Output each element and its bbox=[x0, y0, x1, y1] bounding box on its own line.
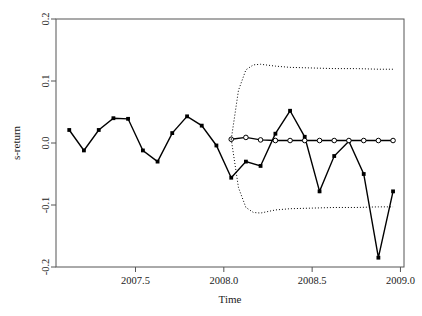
y-axis: -0.2-0.10.00.10.2 bbox=[40, 12, 57, 275]
time-series-forecast-plot: 2007.52008.02008.52009.0 -0.2-0.10.00.10… bbox=[0, 0, 422, 316]
data-point-marker bbox=[229, 176, 233, 180]
data-point-marker bbox=[391, 189, 395, 193]
chart-container: 2007.52008.02008.52009.0 -0.2-0.10.00.10… bbox=[0, 0, 422, 316]
data-point-marker bbox=[332, 154, 336, 158]
forecast-point-marker bbox=[332, 138, 337, 143]
x-axis-tick-label: 2007.5 bbox=[121, 275, 150, 286]
data-point-marker bbox=[274, 132, 278, 136]
forecast-point-marker bbox=[302, 138, 307, 143]
data-point-marker bbox=[259, 164, 263, 168]
data-series-group bbox=[67, 64, 395, 259]
forecast-point-marker bbox=[258, 138, 263, 143]
forecast-point-marker bbox=[244, 135, 249, 140]
series-line-observed bbox=[69, 111, 393, 258]
forecast-point-marker bbox=[361, 138, 366, 143]
data-point-marker bbox=[376, 256, 380, 260]
data-point-marker bbox=[97, 128, 101, 132]
x-axis-title: Time bbox=[219, 293, 242, 305]
data-point-marker bbox=[170, 131, 174, 135]
y-axis-tick-label: -0.2 bbox=[40, 259, 51, 276]
data-point-marker bbox=[200, 124, 204, 128]
x-axis-tick-label: 2008.5 bbox=[298, 275, 327, 286]
y-axis-tick-label: 0.1 bbox=[40, 74, 51, 87]
y-axis-tick-label: 0.2 bbox=[40, 12, 51, 25]
data-point-marker bbox=[126, 117, 130, 121]
y-axis-title: s-return bbox=[10, 125, 22, 160]
forecast-point-marker bbox=[376, 138, 381, 143]
data-point-marker bbox=[362, 172, 366, 176]
y-axis-tick-label: 0.0 bbox=[40, 136, 51, 149]
forecast-point-marker bbox=[391, 138, 396, 143]
data-point-marker bbox=[215, 144, 219, 148]
forecast-point-marker bbox=[317, 138, 322, 143]
data-point-marker bbox=[112, 116, 116, 120]
x-axis-tick-label: 2008.0 bbox=[209, 275, 238, 286]
data-point-marker bbox=[318, 189, 322, 193]
y-axis-tick-label: -0.1 bbox=[40, 197, 51, 214]
forecast-point-marker bbox=[273, 138, 278, 143]
x-axis-tick-label: 2009.0 bbox=[386, 275, 415, 286]
data-point-marker bbox=[185, 114, 189, 118]
data-point-marker bbox=[288, 109, 292, 113]
data-point-marker bbox=[141, 149, 145, 153]
data-point-marker bbox=[67, 128, 71, 132]
forecast-point-marker bbox=[347, 138, 352, 143]
data-point-marker bbox=[82, 149, 86, 153]
series-line-upper-confidence-band bbox=[231, 64, 393, 139]
plot-frame bbox=[56, 19, 404, 267]
data-point-marker bbox=[244, 160, 248, 164]
data-point-marker bbox=[156, 160, 160, 164]
series-line-forecast bbox=[231, 137, 393, 140]
x-axis: 2007.52008.02008.52009.0 bbox=[121, 267, 415, 286]
forecast-point-marker bbox=[288, 138, 293, 143]
